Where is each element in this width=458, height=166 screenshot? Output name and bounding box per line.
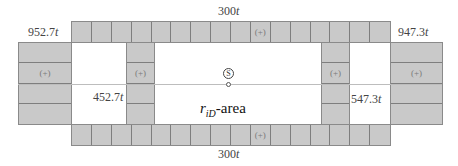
inner-right-row xyxy=(322,43,349,63)
center-point-icon xyxy=(226,82,231,87)
top-left-unit: t xyxy=(55,25,58,39)
right-block-row xyxy=(391,43,442,63)
inner-left-unit: t xyxy=(120,90,123,104)
top-center-unit: t xyxy=(236,4,239,18)
bottom-strip-cell xyxy=(171,125,191,145)
s-marker-glyph: S xyxy=(226,69,230,78)
inner-left-row xyxy=(127,104,154,124)
top-strip-cell xyxy=(191,22,211,42)
bottom-center-label: 300t xyxy=(218,147,239,162)
top-strip-cell xyxy=(370,22,390,42)
top-strip-cell xyxy=(330,22,350,42)
inner-right-label: 547.3t xyxy=(351,92,381,107)
left-block-row xyxy=(19,43,71,63)
top-center-label: 300t xyxy=(218,4,239,19)
bottom-strip-cell xyxy=(330,125,350,145)
inner-left-value: 452.7 xyxy=(93,90,120,104)
right-block-row xyxy=(391,104,442,124)
area-label: riD-area xyxy=(200,100,246,119)
bottom-strip-cell xyxy=(211,125,231,145)
bottom-cell-strip: (+) xyxy=(71,124,391,146)
top-strip-cell xyxy=(271,22,291,42)
bottom-strip-cell xyxy=(231,125,251,145)
right-block-row xyxy=(391,84,442,104)
bottom-strip-cell xyxy=(112,125,132,145)
area-subscript: iD xyxy=(206,108,216,119)
inner-right-unit: t xyxy=(378,92,381,106)
top-strip-cell xyxy=(211,22,231,42)
bottom-strip-cell xyxy=(350,125,370,145)
inner-left-label: 452.7t xyxy=(93,90,123,105)
inner-right-row xyxy=(322,84,349,104)
s-marker-icon: S xyxy=(223,68,234,79)
inner-left-plus-row: (+) xyxy=(127,63,154,83)
top-center-value: 300 xyxy=(218,4,236,18)
bottom-strip-cell xyxy=(271,125,291,145)
top-strip-plus-cell: (+) xyxy=(251,22,271,42)
top-right-label: 947.3t xyxy=(398,25,428,40)
bottom-center-unit: t xyxy=(236,147,239,161)
bottom-strip-cell xyxy=(72,125,92,145)
top-strip-cell xyxy=(92,22,112,42)
bottom-strip-cell xyxy=(311,125,331,145)
top-strip-cell xyxy=(311,22,331,42)
bottom-strip-cell xyxy=(152,125,172,145)
bottom-strip-cell xyxy=(132,125,152,145)
top-strip-cell xyxy=(72,22,92,42)
inner-right-plus-row: (+) xyxy=(322,63,349,83)
bottom-strip-cell xyxy=(191,125,211,145)
inner-left-row xyxy=(127,84,154,104)
top-right-unit: t xyxy=(425,25,428,39)
bottom-strip-cell xyxy=(291,125,311,145)
top-left-label: 952.7t xyxy=(28,25,58,40)
top-left-value: 952.7 xyxy=(28,25,55,39)
top-strip-cell xyxy=(350,22,370,42)
bottom-strip-plus-cell: (+) xyxy=(251,125,271,145)
left-block-row xyxy=(19,104,71,124)
top-strip-cell xyxy=(112,22,132,42)
inner-right-value: 547.3 xyxy=(351,92,378,106)
top-strip-cell xyxy=(231,22,251,42)
bottom-strip-cell xyxy=(370,125,390,145)
bottom-center-value: 300 xyxy=(218,147,236,161)
top-strip-cell xyxy=(171,22,191,42)
diagram-canvas: (+) (+) (+) (+) (+) (+) 300t 300t 952.7t… xyxy=(0,0,458,166)
top-cell-strip: (+) xyxy=(71,21,391,43)
top-strip-cell xyxy=(152,22,172,42)
top-strip-cell xyxy=(291,22,311,42)
bottom-strip-cell xyxy=(92,125,112,145)
left-block-row xyxy=(19,84,71,104)
inner-right-row xyxy=(322,104,349,124)
top-right-value: 947.3 xyxy=(398,25,425,39)
left-block-plus-row: (+) xyxy=(19,63,71,83)
inner-left-row xyxy=(127,43,154,63)
top-strip-cell xyxy=(132,22,152,42)
right-block-plus-row: (+) xyxy=(391,63,442,83)
area-suffix: -area xyxy=(216,100,246,116)
